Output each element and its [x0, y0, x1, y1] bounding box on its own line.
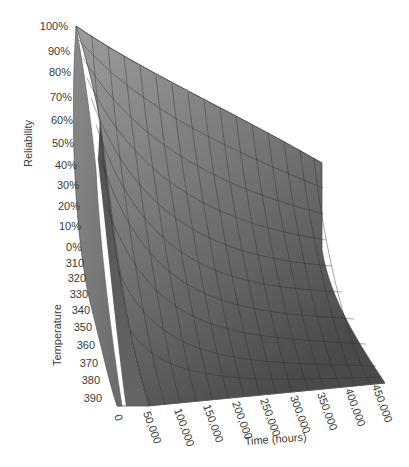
svg-text:450,000: 450,000 — [370, 383, 395, 424]
svg-text:400,000: 400,000 — [343, 387, 368, 428]
svg-text:360: 360 — [77, 339, 95, 351]
svg-text:380: 380 — [82, 374, 100, 386]
svg-text:0%: 0% — [66, 241, 82, 253]
svg-text:40%: 40% — [55, 159, 77, 171]
svg-text:0: 0 — [112, 413, 125, 423]
svg-text:350,000: 350,000 — [315, 391, 340, 432]
svg-text:310: 310 — [66, 257, 84, 269]
svg-text:390: 390 — [84, 392, 102, 404]
svg-text:10%: 10% — [59, 220, 81, 232]
svg-text:20%: 20% — [58, 200, 80, 212]
svg-text:150,000: 150,000 — [201, 403, 226, 444]
svg-text:340: 340 — [72, 304, 90, 316]
svg-text:50%: 50% — [52, 137, 74, 149]
svg-text:90%: 90% — [48, 45, 70, 57]
svg-text:70%: 70% — [50, 91, 72, 103]
z-axis-title: Reliability — [22, 119, 34, 167]
svg-text:80%: 80% — [49, 66, 71, 78]
svg-text:100,000: 100,000 — [172, 407, 197, 448]
svg-text:60%: 60% — [51, 114, 73, 126]
svg-text:370: 370 — [80, 357, 98, 369]
svg-text:300,000: 300,000 — [288, 394, 313, 435]
svg-text:350: 350 — [74, 321, 92, 333]
svg-text:100%: 100% — [40, 20, 68, 32]
svg-text:320: 320 — [68, 272, 86, 284]
svg-text:50,000: 50,000 — [141, 410, 164, 446]
svg-text:330: 330 — [70, 288, 88, 300]
svg-text:30%: 30% — [57, 179, 79, 191]
y-axis-title: Temperature — [51, 304, 63, 366]
reliability-surface-chart: 100% 90% 80% 70% 60% 50% 40% 30% 20% 10%… — [0, 0, 409, 467]
